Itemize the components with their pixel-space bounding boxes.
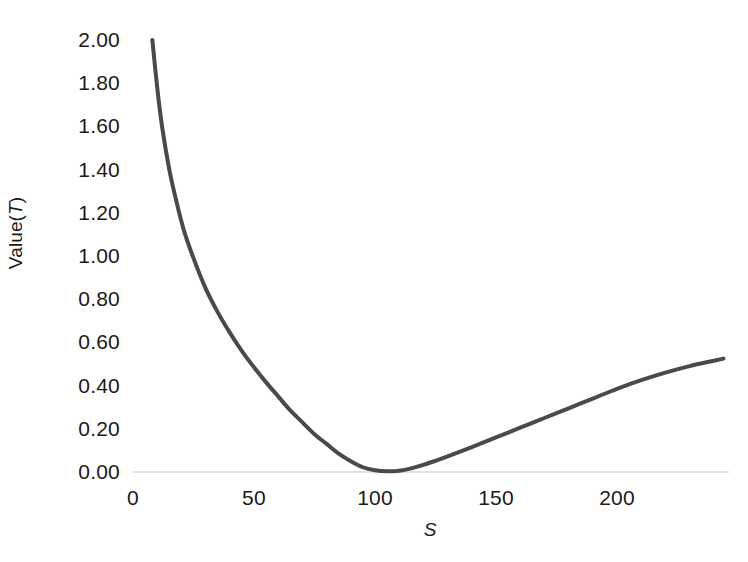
value-curve <box>152 40 723 471</box>
plot-area <box>0 0 748 562</box>
chart-figure: Value(T) 2.001.801.601.401.201.000.800.6… <box>0 0 748 562</box>
